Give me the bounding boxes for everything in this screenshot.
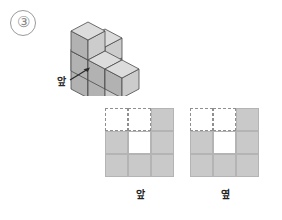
front-view-block: 앞	[105, 108, 175, 201]
front-view-cell-r1-c0	[105, 131, 128, 154]
front-view-label: 앞	[105, 186, 175, 201]
front-view-cell-r2-c2	[151, 154, 174, 177]
arrow-up-right-icon	[68, 66, 92, 82]
front-view-cell-r1-c2	[151, 131, 174, 154]
front-view-cell-r0-c0	[105, 108, 128, 131]
side-view-cell-r1-c0	[190, 131, 213, 154]
cube-group	[71, 22, 139, 96]
side-view-cell-r1-c1	[213, 131, 236, 154]
side-view-cell-r2-c2	[236, 154, 259, 177]
side-view-cell-r2-c1	[213, 154, 236, 177]
front-view-cell-r2-c0	[105, 154, 128, 177]
side-view-cell-r1-c2	[236, 131, 259, 154]
side-view-grid	[190, 108, 259, 177]
cube-stack-illustration	[50, 6, 175, 96]
cube-stack-svg	[50, 6, 175, 96]
problem-number: ③	[10, 10, 36, 36]
projection-views: 앞 옆	[0, 108, 282, 216]
front-view-cell-r0-c1	[128, 108, 151, 131]
front-view-cell-r2-c1	[128, 154, 151, 177]
side-view-block: 옆	[190, 108, 260, 201]
side-view-cell-r0-c2	[236, 108, 259, 131]
stack-front-label: 앞	[57, 76, 66, 87]
side-view-label: 옆	[190, 186, 260, 201]
front-view-cell-r0-c2	[151, 108, 174, 131]
front-view-grid	[105, 108, 174, 177]
worksheet-page: ③ 앞 앞 옆	[0, 0, 282, 220]
side-view-cell-r0-c1	[213, 108, 236, 131]
front-view-cell-r1-c1	[128, 131, 151, 154]
side-view-cell-r0-c0	[190, 108, 213, 131]
side-view-cell-r2-c0	[190, 154, 213, 177]
